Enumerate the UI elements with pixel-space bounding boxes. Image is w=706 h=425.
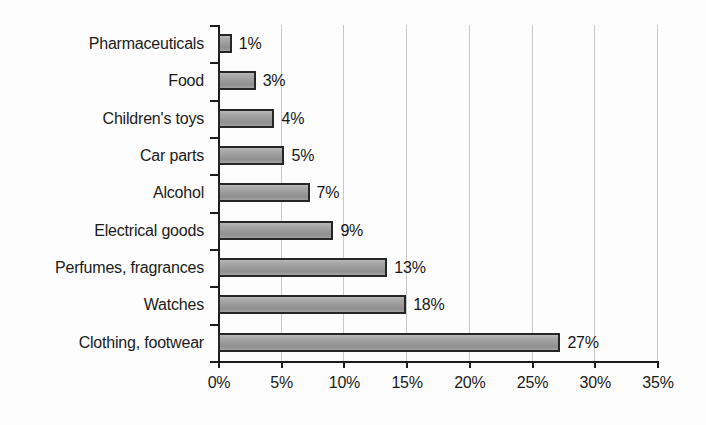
bar-row: 13% [218, 249, 657, 286]
y-axis-tick [210, 249, 218, 251]
x-axis-tick-label: 20% [454, 374, 485, 392]
bar [218, 146, 284, 165]
bar-row: 4% [218, 100, 657, 137]
plot-area: 1%3%4%5%7%9%13%18%27% [218, 25, 657, 361]
bar-value-label: 13% [394, 258, 425, 277]
bar-row: 3% [218, 62, 657, 99]
y-axis-tick [210, 212, 218, 214]
bar-value-label: 5% [291, 146, 314, 165]
bar-value-label: 1% [239, 34, 262, 53]
y-axis-category-label: Pharmaceuticals [0, 34, 204, 53]
x-axis-tick-label: 30% [580, 374, 611, 392]
y-axis-category-label: Food [0, 71, 204, 90]
bar-row: 1% [218, 25, 657, 62]
y-axis-tick [210, 62, 218, 64]
bar [218, 295, 406, 314]
bar [218, 71, 256, 90]
bar [218, 221, 333, 240]
x-axis-tick [406, 361, 408, 368]
bar-value-label: 9% [340, 221, 363, 240]
x-axis-tick [281, 361, 283, 368]
bar [218, 109, 274, 128]
x-axis-tick [594, 361, 596, 368]
bar-row: 27% [218, 324, 657, 361]
bar [218, 34, 232, 53]
y-axis-tick [210, 137, 218, 139]
y-axis-category-label: Perfumes, fragrances [0, 258, 204, 277]
bar [218, 258, 387, 277]
y-axis-tick [210, 25, 218, 27]
x-axis-tick-label: 10% [329, 374, 360, 392]
x-axis-tick [218, 361, 220, 368]
bar [218, 333, 560, 352]
y-axis-category-label: Watches [0, 295, 204, 314]
bar-row: 9% [218, 212, 657, 249]
x-axis-tick [532, 361, 534, 368]
bar-value-label: 3% [263, 71, 286, 90]
y-axis-category-label: Children's toys [0, 109, 204, 128]
x-axis-tick-label: 35% [642, 374, 673, 392]
y-axis-tick [210, 361, 218, 363]
x-axis-tick-label: 25% [517, 374, 548, 392]
gridline [657, 25, 658, 361]
y-axis-tick [210, 286, 218, 288]
y-axis-category-label: Alcohol [0, 183, 204, 202]
y-axis-category-label: Car parts [0, 146, 204, 165]
bar [218, 183, 310, 202]
x-axis-tick-label: 5% [270, 374, 293, 392]
y-axis-category-label: Electrical goods [0, 221, 204, 240]
bar-value-label: 4% [281, 109, 304, 128]
x-axis-tick-label: 0% [208, 374, 231, 392]
x-axis-line [218, 361, 658, 363]
chart-figure: PharmaceuticalsFoodChildren's toysCar pa… [0, 0, 706, 425]
y-axis-tick [210, 100, 218, 102]
bar-row: 5% [218, 137, 657, 174]
x-axis-tick-label: 15% [391, 374, 422, 392]
bar-value-label: 7% [317, 183, 340, 202]
x-axis-tick [469, 361, 471, 368]
bar-row: 7% [218, 174, 657, 211]
y-axis-tick [210, 174, 218, 176]
bar-row: 18% [218, 286, 657, 323]
y-axis-tick [210, 324, 218, 326]
y-axis-category-labels: PharmaceuticalsFoodChildren's toysCar pa… [0, 25, 210, 361]
y-axis-category-label: Clothing, footwear [0, 333, 204, 352]
x-axis-tick [657, 361, 659, 368]
x-axis-tick [343, 361, 345, 368]
bar-value-label: 27% [567, 333, 598, 352]
bar-value-label: 18% [413, 295, 444, 314]
